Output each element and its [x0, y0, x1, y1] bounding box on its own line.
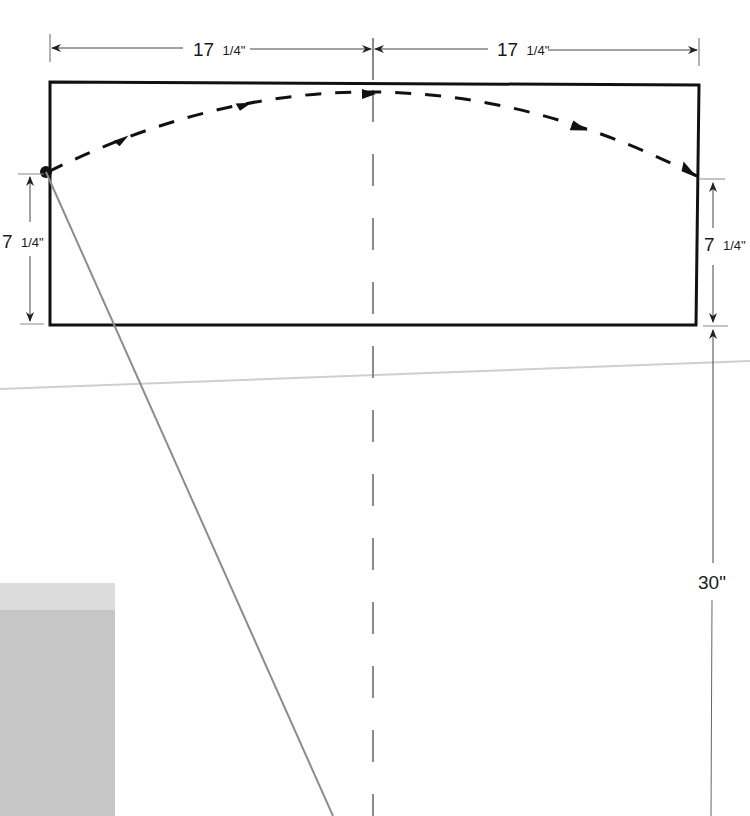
- left-dim-label: 7 1/4": [2, 231, 44, 252]
- gray-block: [0, 583, 115, 816]
- drop-dim-label: 30": [698, 572, 726, 593]
- top-right-dim-label: 17 1/4": [497, 39, 550, 60]
- right-dim-label: 7 1/4": [704, 234, 746, 255]
- diagram-canvas: 17 1/4" 17 1/4" 7 1/4" 7 1/4" 30": [0, 0, 750, 816]
- arc-arrow-icon: [113, 89, 700, 178]
- drop-dim-line-b: [711, 600, 712, 816]
- panel-outline: [50, 82, 699, 325]
- horizon-line: [0, 361, 750, 389]
- top-left-dim-label: 17 1/4": [193, 39, 246, 60]
